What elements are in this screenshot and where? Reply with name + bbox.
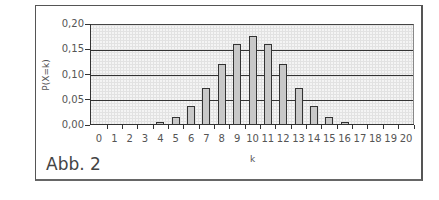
y-tick-label: 0,00 xyxy=(52,120,84,130)
x-tick xyxy=(291,125,292,129)
x-tick-label: 9 xyxy=(230,133,244,144)
x-tick xyxy=(199,125,200,129)
x-tick-label: 4 xyxy=(153,133,167,144)
bar xyxy=(187,106,195,125)
y-tick xyxy=(85,24,90,25)
x-tick-label: 12 xyxy=(276,133,290,144)
x-tick xyxy=(383,125,384,129)
x-tick xyxy=(306,125,307,129)
x-tick-label: 7 xyxy=(199,133,213,144)
x-tick-label: 2 xyxy=(123,133,137,144)
x-tick xyxy=(260,125,261,129)
x-tick-label: 13 xyxy=(292,133,306,144)
x-tick xyxy=(398,125,399,129)
x-tick-label: 14 xyxy=(307,133,321,144)
y-tick-label: 0,10 xyxy=(52,70,84,80)
x-tick xyxy=(168,125,169,129)
y-axis-title: P(X=k) xyxy=(41,59,51,90)
x-tick-label: 19 xyxy=(384,133,398,144)
x-tick-label: 16 xyxy=(338,133,352,144)
x-tick xyxy=(414,125,415,129)
figure-label: Abb. 2 xyxy=(46,154,101,174)
x-tick-label: 6 xyxy=(184,133,198,144)
bar xyxy=(310,106,318,125)
y-tick xyxy=(85,74,90,75)
x-tick xyxy=(275,125,276,129)
x-tick-label: 11 xyxy=(261,133,275,144)
bar xyxy=(249,36,257,125)
bar xyxy=(264,44,272,125)
x-tick-label: 17 xyxy=(353,133,367,144)
x-tick-label: 5 xyxy=(169,133,183,144)
x-tick xyxy=(367,125,368,129)
x-tick xyxy=(229,125,230,129)
x-tick-label: 18 xyxy=(368,133,382,144)
x-tick xyxy=(321,125,322,129)
bar xyxy=(202,88,210,125)
y-tick xyxy=(85,49,90,50)
x-tick xyxy=(183,125,184,129)
x-tick-label: 15 xyxy=(322,133,336,144)
x-tick xyxy=(245,125,246,129)
x-tick-label: 1 xyxy=(107,133,121,144)
x-tick-label: 8 xyxy=(215,133,229,144)
x-tick xyxy=(122,125,123,129)
bar xyxy=(295,88,303,125)
y-tick-label: 0,15 xyxy=(52,44,84,54)
y-tick-label: 0,20 xyxy=(52,19,84,29)
y-tick-label: 0,05 xyxy=(52,95,84,105)
y-tick xyxy=(85,99,90,100)
x-tick xyxy=(352,125,353,129)
x-tick xyxy=(153,125,154,129)
bar xyxy=(233,44,241,125)
x-axis-title: k xyxy=(250,154,255,164)
x-tick-label: 20 xyxy=(399,133,413,144)
x-tick xyxy=(214,125,215,129)
y-tick xyxy=(85,125,90,126)
x-axis xyxy=(90,124,414,125)
y-axis xyxy=(90,24,91,125)
plot-area xyxy=(90,24,414,125)
bar xyxy=(279,64,287,125)
x-tick-label: 10 xyxy=(246,133,260,144)
x-tick-label: 3 xyxy=(138,133,152,144)
x-tick-label: 0 xyxy=(92,133,106,144)
x-tick xyxy=(137,125,138,129)
x-tick xyxy=(107,125,108,129)
x-tick xyxy=(337,125,338,129)
bar xyxy=(218,64,226,125)
